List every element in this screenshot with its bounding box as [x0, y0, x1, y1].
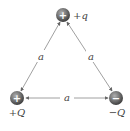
charge-top: + — [56, 8, 70, 22]
charge-bottom-left: + — [10, 91, 24, 105]
charge-label-top: +q — [73, 10, 88, 21]
charge-sign: + — [59, 10, 67, 21]
charge-label-bottom-left: +Q — [9, 107, 26, 118]
charge-sign: + — [13, 93, 21, 104]
charge-bottom-right: − — [109, 91, 123, 105]
side-label-bottom: a — [64, 92, 70, 103]
triangle-diagram: a a a + +q + +Q − −Q — [0, 0, 130, 131]
side-label-right: a — [88, 51, 94, 62]
side-label-left: a — [38, 51, 44, 62]
charge-sign: − — [112, 93, 120, 104]
charge-label-bottom-right: −Q — [109, 107, 126, 118]
